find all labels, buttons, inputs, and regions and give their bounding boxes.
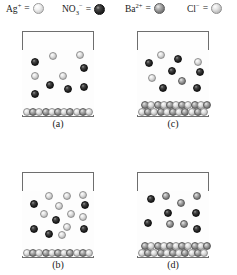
- precipitate-sphere: [200, 249, 208, 257]
- ion-sphere: [31, 90, 40, 99]
- ion-sphere: [63, 192, 72, 201]
- ion-sphere: [40, 210, 49, 219]
- ion-sphere: [79, 191, 88, 200]
- ion-sphere: [159, 84, 168, 93]
- ion-sphere: [174, 55, 183, 64]
- precipitate-sphere: [85, 108, 93, 116]
- legend-equals-sign: =: [86, 5, 91, 15]
- ion-sphere: [76, 51, 85, 60]
- ion-sphere: [80, 83, 89, 92]
- legend-item-chloride-ion: Cl−=: [187, 3, 222, 15]
- beaker-b-precipitate-layer: [22, 242, 94, 257]
- ion-sphere: [162, 192, 171, 201]
- ion-sphere: [178, 77, 187, 86]
- ion-sphere: [145, 59, 154, 68]
- ion-sphere: [30, 225, 39, 234]
- ion-sphere: [45, 230, 54, 239]
- beaker-c-label: (c): [137, 118, 209, 129]
- beaker-d-label: (d): [137, 259, 209, 270]
- ion-sphere: [180, 220, 189, 229]
- precipitate-sphere: [85, 249, 93, 257]
- precipitate-sphere: [200, 108, 208, 116]
- legend-equals-sign: =: [145, 4, 150, 14]
- ion-sphere: [58, 231, 67, 240]
- ion-sphere: [193, 225, 202, 234]
- beaker-c: [137, 31, 209, 117]
- beaker-d-precipitate-layer: [137, 235, 209, 257]
- ion-sphere: [49, 52, 58, 61]
- precipitate-sphere: [203, 101, 211, 109]
- ion-sphere: [193, 192, 202, 201]
- ion-sphere: [144, 219, 153, 228]
- particulate-diagram-figure: Ag+=NO3−=Ba2+=Cl−= (a)(c)(b)(d): [0, 0, 237, 275]
- legend-equals-sign: =: [203, 4, 208, 14]
- ion-sphere: [63, 223, 72, 232]
- ion-sphere: [31, 58, 40, 67]
- ion-sphere: [80, 225, 89, 234]
- legend-sphere-barium-ion-icon: [154, 3, 165, 14]
- beaker-b-label: (b): [22, 259, 94, 270]
- legend-formula-chloride-ion: Cl−: [187, 3, 200, 15]
- ion-sphere: [193, 84, 202, 93]
- beaker-b: [22, 172, 94, 258]
- beaker-a: [22, 31, 94, 117]
- legend-sphere-silver-ion-icon: [33, 3, 44, 14]
- legend-formula-barium-ion: Ba2+: [125, 3, 142, 15]
- ion-sphere: [81, 201, 90, 210]
- ion-sphere: [194, 58, 203, 67]
- legend-item-nitrate-ion: NO3−=: [62, 3, 105, 17]
- ion-sphere: [30, 200, 39, 209]
- ion-sphere: [59, 72, 68, 81]
- beaker-a-label: (a): [22, 118, 94, 129]
- ion-sphere: [148, 74, 157, 83]
- legend-sphere-nitrate-ion-icon: [94, 4, 105, 15]
- ion-sphere: [52, 216, 61, 225]
- ion-sphere: [192, 209, 201, 218]
- beaker-a-precipitate-layer: [22, 101, 94, 116]
- legend-item-silver-ion: Ag+=: [6, 3, 44, 15]
- legend: Ag+=NO3−=Ba2+=Cl−=: [0, 0, 237, 26]
- ion-sphere: [79, 213, 88, 222]
- ion-sphere: [45, 192, 54, 201]
- legend-formula-nitrate-ion: NO3−: [62, 3, 83, 17]
- legend-sphere-chloride-ion-icon: [211, 3, 222, 14]
- ion-sphere: [196, 68, 205, 77]
- legend-formula-silver-ion: Ag+: [6, 3, 21, 15]
- ion-sphere: [55, 202, 64, 211]
- beaker-d: [137, 172, 209, 258]
- legend-item-barium-ion: Ba2+=: [125, 3, 165, 15]
- ion-sphere: [147, 195, 156, 204]
- ion-sphere: [177, 199, 186, 208]
- ion-sphere: [164, 209, 173, 218]
- beaker-c-precipitate-layer: [137, 94, 209, 116]
- ion-sphere: [31, 72, 40, 81]
- ion-sphere: [157, 51, 166, 60]
- ion-sphere: [168, 67, 177, 76]
- ion-sphere: [166, 220, 175, 229]
- precipitate-sphere: [203, 242, 211, 250]
- ion-sphere: [64, 85, 73, 94]
- ion-sphere: [46, 81, 55, 90]
- legend-equals-sign: =: [24, 4, 29, 14]
- ion-sphere: [67, 210, 76, 219]
- ion-sphere: [80, 64, 89, 73]
